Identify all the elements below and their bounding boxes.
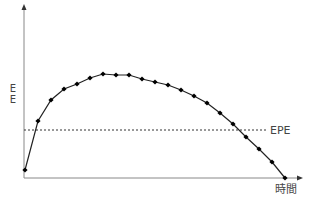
data-point-marker-icon: [165, 82, 170, 87]
epe-label: EPE: [270, 124, 291, 137]
y-axis-label-top: E: [10, 83, 16, 94]
data-point-marker-icon: [178, 87, 183, 92]
y-axis-label-bottom: E: [10, 94, 16, 105]
data-point-marker-icon: [191, 93, 196, 98]
y-axis-arrow-icon: [22, 4, 27, 10]
data-point-marker-icon: [113, 72, 118, 77]
chart: EPE E E 時間: [0, 0, 310, 201]
data-point-marker-icon: [100, 71, 105, 76]
data-point-marker-icon: [87, 75, 92, 80]
data-point-marker-icon: [74, 81, 79, 86]
x-axis-arrow-icon: [297, 176, 303, 181]
data-point-marker-icon: [139, 76, 144, 81]
data-point-marker-icon: [22, 167, 27, 172]
exposure-series: [22, 71, 287, 180]
data-point-marker-icon: [126, 72, 131, 77]
data-point-marker-icon: [152, 79, 157, 84]
x-axis-label: 時間: [275, 183, 297, 196]
